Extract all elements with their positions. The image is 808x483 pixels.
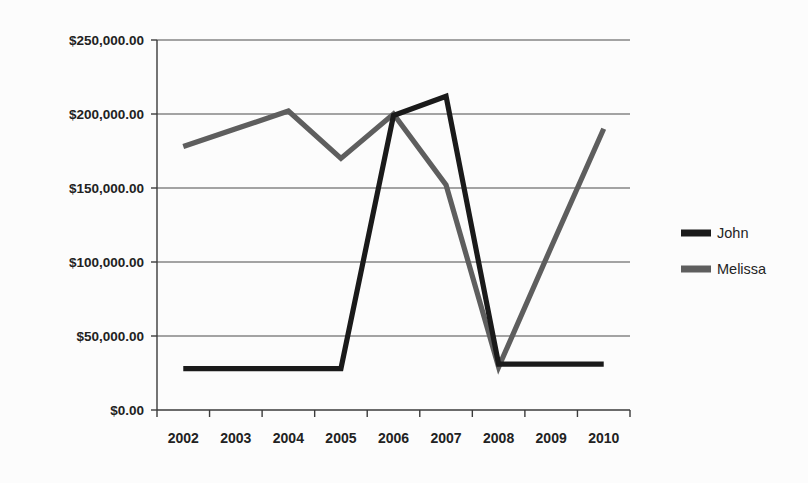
x-axis-tick-label: 2007 <box>430 430 461 446</box>
x-axis-tick-label: 2003 <box>220 430 251 446</box>
chart-canvas: $0.00$50,000.00$100,000.00$150,000.00$20… <box>0 0 808 483</box>
y-axis-tick-label: $250,000.00 <box>69 33 144 48</box>
y-axis-tick-label: $150,000.00 <box>69 181 144 196</box>
x-axis-tick-label: 2002 <box>168 430 199 446</box>
line-chart-figure: $0.00$50,000.00$100,000.00$150,000.00$20… <box>0 0 808 483</box>
legend-swatch-melissa <box>681 266 711 273</box>
x-axis-tick-labels-group: 200220032004200520062007200820092010 <box>168 430 620 446</box>
y-axis-tick-label: $50,000.00 <box>76 329 144 344</box>
legend-label-john: John <box>717 225 748 241</box>
y-axis-tick-label: $200,000.00 <box>69 107 144 122</box>
x-axis-tick-label: 2004 <box>273 430 304 446</box>
y-axis-tick-label: $0.00 <box>110 403 144 418</box>
x-axis-tick-label: 2008 <box>483 430 514 446</box>
x-axis-tick-label: 2006 <box>378 430 409 446</box>
y-axis-tick-label: $100,000.00 <box>69 255 144 270</box>
x-axis-tick-label: 2005 <box>325 430 356 446</box>
x-axis-tick-label: 2009 <box>536 430 567 446</box>
legend-swatch-john <box>681 230 711 237</box>
x-axis-tick-label: 2010 <box>588 430 619 446</box>
legend-label-melissa: Melissa <box>717 261 767 277</box>
